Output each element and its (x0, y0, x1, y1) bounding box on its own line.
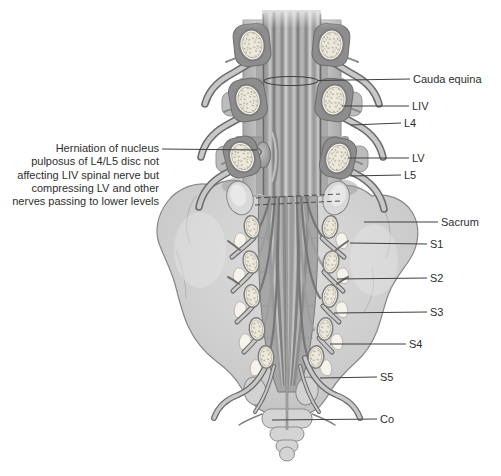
annotation-line: Herniation of nucleus (12, 142, 159, 155)
label-co: Co (380, 414, 394, 425)
label-s5: S5 (380, 372, 393, 383)
annotation-line: pulposus of L4/L5 disc not (12, 155, 159, 168)
annotation-line: compressing LV and other (12, 182, 159, 195)
top-fade (0, 0, 501, 28)
label-sacrum: Sacrum (441, 217, 479, 228)
label-s3: S3 (430, 307, 443, 318)
spine-illustration (0, 0, 501, 476)
label-l4: L4 (404, 118, 416, 129)
cauda-equina-bundle (262, 10, 321, 196)
label-liv: LIV (412, 101, 429, 112)
label-s2: S2 (430, 273, 443, 284)
figure-canvas: Cauda equina LIV L4 LV L5 Sacrum S1 S2 S… (0, 0, 501, 476)
label-l5: L5 (404, 170, 416, 181)
label-s4: S4 (409, 339, 422, 350)
label-cauda-equina: Cauda equina (413, 74, 482, 85)
annotation-line: nerves passing to lower levels (12, 195, 159, 208)
label-s1: S1 (430, 239, 443, 250)
annotation-line: affecting LIV spinal nerve but (12, 169, 159, 182)
annotation-herniation: Herniation of nucleus pulposus of L4/L5 … (12, 142, 159, 208)
label-lv: LV (412, 153, 425, 164)
